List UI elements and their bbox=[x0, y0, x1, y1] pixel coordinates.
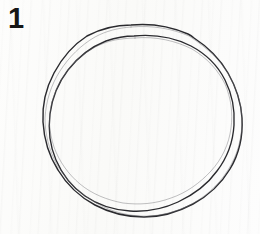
double-ring-drawing bbox=[0, 0, 260, 234]
inner-ring-ghost-stroke bbox=[50, 38, 232, 204]
figure-panel: 1 bbox=[0, 0, 260, 234]
inner-ring-stroke bbox=[49, 35, 234, 211]
outer-ring-stroke bbox=[43, 24, 242, 217]
